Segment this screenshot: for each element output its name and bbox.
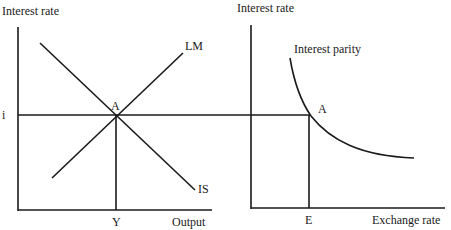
is-lm-interest-parity-diagram: Interest rate Output IS LM A Y i Interes… [0, 0, 451, 230]
exchange-level-label: E [305, 213, 312, 227]
is-curve-label: IS [198, 182, 209, 196]
right-y-axis-label: Interest rate [237, 1, 294, 15]
right-equilibrium-label: A [318, 102, 327, 116]
lm-curve-label: LM [185, 39, 203, 53]
left-y-axis-label: Interest rate [2, 4, 59, 18]
interest-level-label: i [2, 108, 6, 122]
interest-parity-label: Interest parity [294, 42, 361, 56]
left-equilibrium-label: A [111, 99, 120, 113]
left-panel: Interest rate Output IS LM A Y i [2, 4, 212, 229]
right-x-axis-label: Exchange rate [372, 213, 440, 227]
output-level-label: Y [112, 215, 121, 229]
right-panel: Interest rate Exchange rate Interest par… [237, 1, 445, 227]
left-x-axis-label: Output [172, 215, 206, 229]
